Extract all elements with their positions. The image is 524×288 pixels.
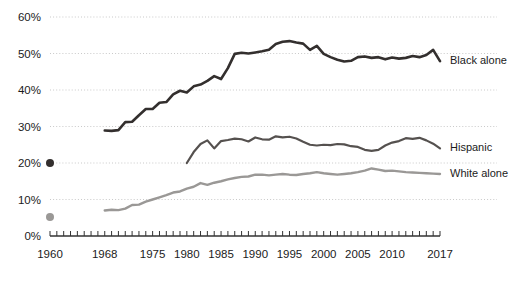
x-axis-tick-label: 1980 xyxy=(174,248,200,260)
chart-container: 0%10%20%30%40%50%60% 1960196819751980198… xyxy=(0,0,524,288)
series-line-black-alone xyxy=(105,41,440,131)
legend-label-white-alone: White alone xyxy=(450,167,508,179)
y-axis-tick-label: 20% xyxy=(18,157,41,169)
data-series xyxy=(105,41,440,210)
series-line-white-alone xyxy=(105,168,440,210)
x-axis-tick-label: 2005 xyxy=(345,248,371,260)
x-axis xyxy=(50,231,440,236)
line-chart: 0%10%20%30%40%50%60% 1960196819751980198… xyxy=(0,0,524,288)
legend: Black aloneHispanicWhite alone xyxy=(450,54,508,179)
x-axis-tick-label: 1985 xyxy=(208,248,234,260)
x-axis-tick-label: 1990 xyxy=(242,248,268,260)
x-axis-tick-label: 1975 xyxy=(140,248,166,260)
x-axis-tick-label: 2000 xyxy=(311,248,337,260)
y-axis-tick-label: 10% xyxy=(18,194,41,206)
data-point-marker-white-alone xyxy=(46,213,54,221)
x-axis-tick-label: 1995 xyxy=(277,248,303,260)
x-axis-tick-label: 2017 xyxy=(427,248,453,260)
y-axis-tick-label: 60% xyxy=(18,11,41,23)
legend-label-hispanic: Hispanic xyxy=(450,141,493,153)
x-axis-tick-label: 1968 xyxy=(92,248,118,260)
y-axis-labels: 0%10%20%30%40%50%60% xyxy=(18,11,41,242)
series-line-hispanic xyxy=(187,136,440,163)
x-axis-labels: 1960196819751980198519901995200020052010… xyxy=(37,248,453,260)
data-point-marker-black-alone xyxy=(46,159,54,167)
y-axis-tick-label: 30% xyxy=(18,121,41,133)
data-point-markers xyxy=(46,159,54,221)
legend-label-black-alone: Black alone xyxy=(450,54,507,66)
x-axis-tick-label: 2010 xyxy=(379,248,405,260)
y-axis-tick-label: 50% xyxy=(18,48,41,60)
x-axis-tick-label: 1960 xyxy=(37,248,63,260)
y-axis-tick-label: 0% xyxy=(24,230,41,242)
y-axis-tick-label: 40% xyxy=(18,84,41,96)
